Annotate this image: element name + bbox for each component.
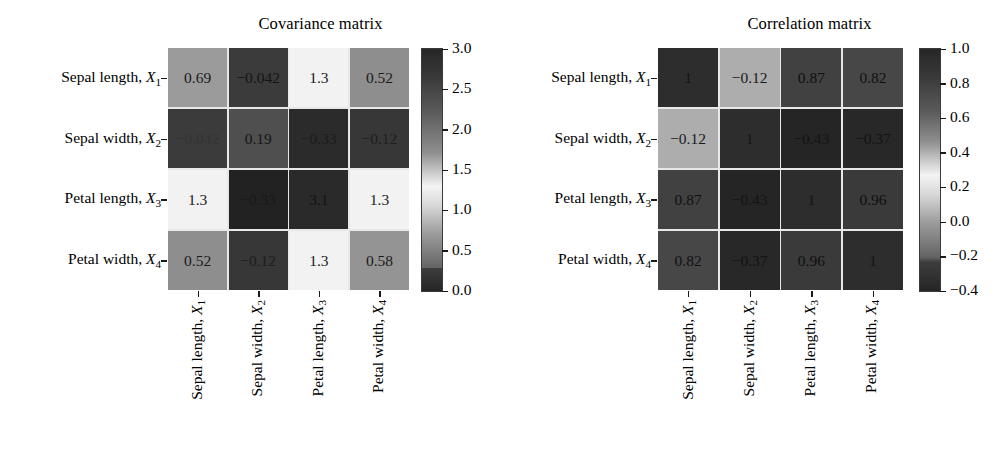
heatmap-cell: −0.43 — [781, 109, 841, 168]
y-axis-tick — [651, 78, 657, 79]
heatmap-cell: −0.12 — [658, 109, 718, 168]
x-axis-tick-label: Petal width, X4 — [863, 300, 881, 393]
heatmap-cell-value: 0.19 — [245, 131, 272, 147]
heatmap-cell-value: −0.33 — [301, 131, 337, 147]
heatmap-cell-value: 1 — [807, 192, 815, 208]
heatmap-cell: −0.042 — [229, 48, 288, 107]
heatmap-cell-value: 0.69 — [184, 70, 211, 86]
colorbar-gradient-covariance — [421, 48, 443, 292]
colorbar-correlation: 1.00.80.60.40.20.0−0.2−0.4 — [919, 48, 941, 292]
heatmap-cell: 0.69 — [168, 48, 227, 107]
heatmap-cell-value: −0.042 — [236, 70, 280, 86]
heatmap-cell-value: −0.43 — [793, 131, 829, 147]
heatmap-cell-value: 0.52 — [184, 253, 211, 269]
y-axis-tick — [161, 260, 167, 261]
colorbar-tick-label: 2.0 — [442, 120, 471, 138]
heatmap-cell: −0.37 — [720, 231, 780, 290]
heatmap-cell-value: 1.3 — [309, 70, 328, 86]
heatmap-cell-value: −0.042 — [176, 131, 220, 147]
y-axis-tick-label: Petal width, X4 — [68, 250, 161, 270]
y-axis-tick-label: Sepal width, X2 — [65, 129, 161, 149]
x-axis-tick — [750, 291, 751, 297]
heatmap-cell: 1 — [781, 170, 841, 229]
heatmap-cell-value: 1.3 — [370, 192, 389, 208]
x-axis-labels-covariance: Sepal length, X1Sepal width, X2Petal len… — [168, 300, 409, 468]
heatmap-cell: −0.12 — [720, 48, 780, 107]
heatmap-cell-value: 1 — [869, 253, 877, 269]
panel-title-covariance: Covariance matrix — [0, 14, 571, 34]
colorbar-tick-mark — [940, 83, 946, 84]
heatmap-cell: 1.3 — [168, 170, 227, 229]
colorbar-tick-label: 0.2 — [940, 177, 969, 195]
heatmap-cell-value: 1 — [746, 131, 754, 147]
heatmap-cell: 0.87 — [658, 170, 718, 229]
y-axis-tick-label: Sepal length, X1 — [551, 68, 651, 88]
heatmap-cell-value: 0.87 — [798, 70, 825, 86]
heatmap-cell: 1 — [720, 109, 780, 168]
panel-covariance-matrix: Covariance matrix Sepal length, X1Sepal … — [0, 0, 501, 470]
heatmap-cell: −0.042 — [168, 109, 227, 168]
colorbar-tick-label: 2.5 — [442, 79, 471, 97]
heatmap-cell-value: −0.37 — [732, 253, 768, 269]
colorbar-tick-label: 1.0 — [940, 39, 969, 57]
colorbar-tick-mark — [940, 187, 946, 188]
y-axis-tick — [161, 139, 167, 140]
x-axis-tick-label: Petal length, X3 — [802, 300, 820, 396]
x-axis-labels-correlation: Sepal length, X1Sepal width, X2Petal len… — [658, 300, 903, 468]
x-axis-tick — [198, 291, 199, 297]
y-axis-tick-label: Sepal width, X2 — [555, 129, 651, 149]
x-axis-tick — [873, 291, 874, 297]
heatmap-cell: −0.43 — [720, 170, 780, 229]
heatmap-cell-value: 0.82 — [859, 70, 886, 86]
heatmap-cell-value: 0.87 — [675, 192, 702, 208]
x-axis-tick-label: Sepal width, X2 — [741, 300, 759, 396]
colorbar-tick-mark — [940, 291, 946, 292]
x-axis-tick — [811, 291, 812, 297]
colorbar-tick-mark — [442, 250, 448, 251]
colorbar-tick-label: 1.5 — [442, 160, 471, 178]
heatmap-cell: 1 — [843, 231, 903, 290]
x-axis-tick-label: Petal length, X3 — [310, 300, 328, 396]
heatmap-cell: 3.1 — [289, 170, 348, 229]
heatmap-cell-value: −0.12 — [732, 70, 768, 86]
colorbar-covariance: 3.02.52.01.51.00.50.0 — [421, 48, 443, 292]
colorbar-gradient-correlation — [919, 48, 941, 292]
colorbar-tick-mark — [940, 152, 946, 153]
panel-title-correlation: Correlation matrix — [501, 14, 1002, 34]
colorbar-tick-label: 0.8 — [940, 74, 969, 92]
colorbar-tick-mark — [442, 210, 448, 211]
x-axis-tick — [319, 291, 320, 297]
colorbar-tick-mark — [442, 170, 448, 171]
heatmap-cell: 0.87 — [781, 48, 841, 107]
x-axis-tick-label: Sepal length, X1 — [680, 300, 698, 400]
heatmap-cell: −0.12 — [350, 109, 409, 168]
colorbar-tick-label: 1.0 — [442, 200, 471, 218]
y-axis-labels-correlation: Sepal length, X1Sepal width, X2Petal len… — [501, 48, 651, 290]
y-axis-tick — [161, 199, 167, 200]
colorbar-tick-label: 0.5 — [442, 241, 471, 259]
colorbar-tick-mark — [940, 256, 946, 257]
heatmap-cell-value: 1.3 — [188, 192, 207, 208]
colorbar-tick-mark — [442, 129, 448, 130]
heatmap-cell-value: −0.12 — [670, 131, 706, 147]
heatmap-cell: −0.33 — [289, 109, 348, 168]
y-axis-labels-covariance: Sepal length, X1Sepal width, X2Petal len… — [0, 48, 161, 290]
colorbar-tick-mark — [940, 49, 946, 50]
x-axis-tick-label: Sepal width, X2 — [249, 300, 267, 396]
colorbar-ticks-correlation: 1.00.80.60.40.20.0−0.2−0.4 — [940, 48, 1002, 290]
x-axis-tick-label: Petal width, X4 — [370, 300, 388, 393]
figure-canvas: Covariance matrix Sepal length, X1Sepal … — [0, 0, 1002, 470]
heatmap-cell: −0.37 — [843, 109, 903, 168]
heatmap-cell: 0.82 — [843, 48, 903, 107]
colorbar-tick-label: −0.4 — [940, 281, 978, 299]
colorbar-tick-label: 3.0 — [442, 39, 471, 57]
heatmap-grid-correlation: 1−0.120.870.82−0.121−0.43−0.370.87−0.431… — [658, 48, 903, 290]
heatmap-cell-value: −0.43 — [732, 192, 768, 208]
heatmap-cell-value: 3.1 — [309, 192, 328, 208]
heatmap-cell: 1.3 — [289, 231, 348, 290]
heatmap-cell-value: −0.12 — [362, 131, 398, 147]
heatmap-cell-value: 0.58 — [366, 253, 393, 269]
panel-correlation-matrix: Correlation matrix Sepal length, X1Sepal… — [501, 0, 1002, 470]
colorbar-tick-label: −0.2 — [940, 246, 978, 264]
y-axis-tick-label: Petal length, X3 — [65, 189, 161, 209]
